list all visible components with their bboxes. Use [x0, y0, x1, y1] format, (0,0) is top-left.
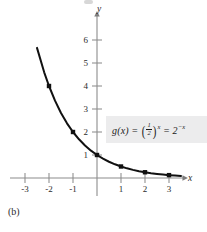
x-tick-label--2: -2: [45, 184, 53, 194]
formula-fraction-one-half: 12: [146, 122, 151, 136]
formula-exponent-negative-x: −x: [178, 123, 186, 130]
formula-label: g(x) = (12)x = 2−x: [112, 120, 207, 140]
y-tick-label-2: 2: [84, 127, 89, 137]
y-tick-label-6: 6: [84, 35, 89, 45]
data-point-marker: [47, 84, 51, 88]
data-point-marker: [71, 130, 75, 134]
formula-function-name: g(x): [112, 125, 129, 136]
y-tick-label-3: 3: [84, 104, 89, 114]
data-point-marker: [167, 173, 171, 177]
y-axis-label: y: [96, 4, 102, 14]
figure-caption: (b): [8, 206, 20, 217]
figure-container: -3 -2 -1 1 2 3 1 2 3 4 5 6 x y g(x) = (1…: [0, 0, 207, 232]
formula-fraction-denominator: 2: [146, 130, 151, 137]
x-tick-label-1: 1: [119, 184, 124, 194]
x-axis-label: x: [187, 173, 193, 183]
x-tick-label-3: 3: [167, 184, 172, 194]
function-curve: [37, 48, 181, 176]
x-tick-label--3: -3: [21, 184, 29, 194]
y-tick-label-4: 4: [84, 81, 89, 91]
data-point-marker: [119, 164, 123, 168]
formula-equals-second: =: [164, 125, 170, 136]
formula-equals-first: =: [132, 125, 138, 136]
x-tick-label-2: 2: [143, 184, 148, 194]
y-tick-label-1: 1: [84, 150, 89, 160]
formula-exponent-x: x: [158, 123, 161, 130]
data-point-marker: [95, 153, 99, 157]
y-tick-label-5: 5: [84, 58, 89, 68]
x-tick-label--1: -1: [69, 184, 77, 194]
data-point-marker: [143, 170, 147, 174]
